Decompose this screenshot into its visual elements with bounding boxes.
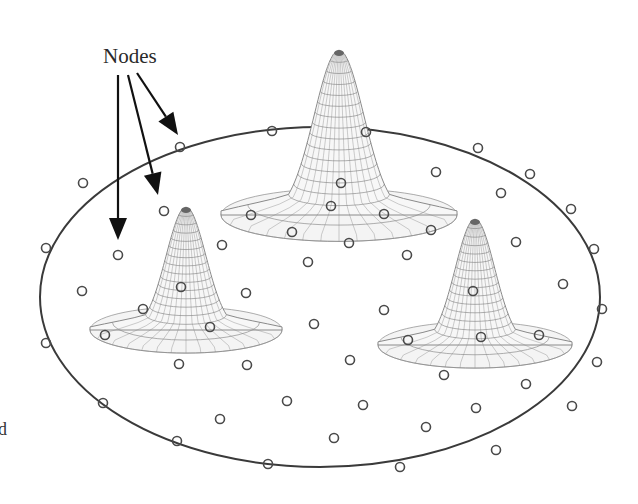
boundary-node [42,339,51,348]
interior-node [559,280,568,289]
interior-node [432,168,441,177]
arrowhead-icon [158,112,178,135]
peak-right [378,219,572,368]
interior-node [78,287,87,296]
boundary-node [492,446,501,455]
interior-node [160,207,169,216]
interior-node [304,258,313,267]
boundary-node [268,127,277,136]
interior-node [218,241,227,250]
interior-node [403,251,412,260]
boundary-node [568,402,577,411]
boundary-node [396,463,405,472]
arrow-shaft [137,73,166,117]
gaussian-peaks [90,50,572,368]
interior-node [114,251,123,260]
boundary-node [42,244,51,253]
interior-node [216,415,225,424]
interior-node [330,434,339,443]
interior-node [310,320,319,329]
arrowhead-icon [109,218,127,240]
diagram-canvas: Nodes d [0,0,638,504]
boundary-node [526,170,535,179]
interior-node [283,397,292,406]
boundary-node [79,179,88,188]
boundary-node [590,245,599,254]
interior-node [440,371,449,380]
interior-node [512,238,521,247]
arrowhead-icon [144,171,161,195]
interior-node [359,401,368,410]
interior-node [175,360,184,369]
boundary-node [593,358,602,367]
interior-node [346,356,355,365]
interior-node [472,404,481,413]
interior-node [422,423,431,432]
boundary-node [474,144,483,153]
interior-node [497,189,506,198]
domain-diagram [0,0,638,504]
cropped-text-fragment: d [0,419,7,440]
interior-node [380,306,389,315]
interior-node [243,361,252,370]
boundary-node [567,205,576,214]
interior-node [522,380,531,389]
nodes-label: Nodes [103,44,157,69]
peak-large-back [221,50,457,241]
node-arrows [109,73,178,240]
interior-node [242,289,251,298]
